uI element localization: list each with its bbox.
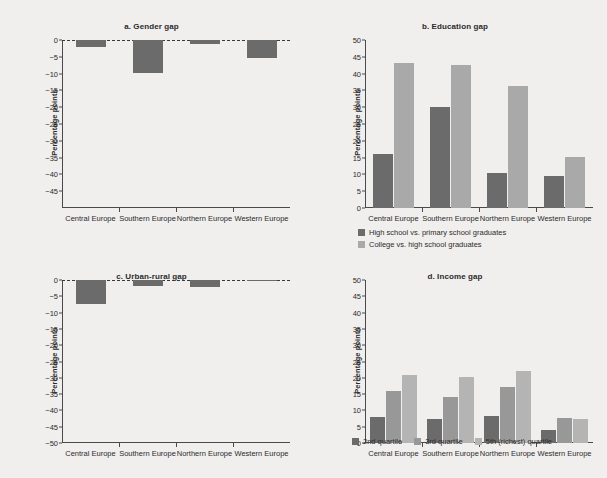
bar [500,387,515,443]
x-axis-tick-label: Central Europe [365,214,422,223]
legend-item: High school vs. primary school graduates [358,228,506,237]
figure-panel-grid: a. Gender gap Percentage points0−5−10−15… [0,0,607,478]
bar [508,86,528,208]
bar [402,375,417,443]
bar-container [365,40,593,208]
x-axis-tick-label: Northern Europe [479,449,536,458]
legend-item: College vs. high school graduates [358,240,482,249]
bar [373,154,393,208]
bar-group [536,280,593,443]
bar [516,371,531,443]
x-axis-tick-label: Western Europe [233,449,290,458]
x-axis-tick-label: Central Europe [62,214,119,223]
bar-group [536,40,593,208]
panel-c-urban-rural-gap: c. Urban-rural gap Percentage points0−5−… [0,250,303,478]
x-axis-tick-mark [119,208,120,212]
x-axis-tick-mark [176,208,177,212]
x-axis-tick-label: Western Europe [536,214,593,223]
bar-group [233,40,290,208]
bar-group [233,280,290,443]
legend: 2nd quartile3rd quartile5th (richest) qu… [313,437,591,446]
bar-group [62,280,119,443]
legend-label: 5th (richest) quartile [486,437,552,446]
bar [247,280,277,281]
legend: High school vs. primary school graduates… [358,228,506,249]
bar [190,40,220,44]
panel-a-gender-gap: a. Gender gap Percentage points0−5−10−15… [0,0,303,250]
x-axis-labels: Central EuropeSouthern EuropeNorthern Eu… [365,214,593,223]
legend-label: College vs. high school graduates [369,240,482,249]
x-axis-tick-label: Northern Europe [176,449,233,458]
x-axis-tick-mark [422,208,423,212]
plot-area: 50454035302520151050 [365,280,593,443]
legend-label: High school vs. primary school graduates [369,228,506,237]
x-axis-tick-label: Western Europe [233,214,290,223]
x-axis-tick-mark [233,208,234,212]
legend-item: 2nd quartile [352,437,402,446]
bar [451,65,471,208]
bar [133,280,163,286]
bar-group [119,40,176,208]
x-axis-labels: Central EuropeSouthern EuropeNorthern Eu… [365,449,593,458]
bar-container [365,280,593,443]
x-axis-labels: Central EuropeSouthern EuropeNorthern Eu… [62,214,290,223]
bar-group [176,40,233,208]
bar-group [62,40,119,208]
x-axis-tick-mark [176,443,177,447]
x-axis-tick-label: Central Europe [62,449,119,458]
bar [247,40,277,58]
bar [386,391,401,443]
bar [76,280,106,304]
x-axis-tick-mark [233,443,234,447]
bar-group [365,40,422,208]
legend-swatch-icon [414,438,421,445]
legend-item: 3rd quartile [414,437,463,446]
legend-label: 3rd quartile [425,437,463,446]
legend-label: 2nd quartile [363,437,402,446]
x-axis-tick-label: Southern Europe [422,214,479,223]
bar [394,63,414,208]
bar-group [176,280,233,443]
bar [459,377,474,443]
bar-group [422,280,479,443]
legend-swatch-icon [352,438,359,445]
bar [76,40,106,47]
panel-b-education-gap: b. Education gap Percentage points504540… [303,0,607,250]
x-axis-tick-label: Northern Europe [176,214,233,223]
bar-group [119,280,176,443]
x-axis-tick-label: Western Europe [536,449,593,458]
legend-swatch-icon [358,241,365,248]
x-axis-tick-mark [479,208,480,212]
x-axis-tick-label: Southern Europe [119,449,176,458]
bar [487,173,507,208]
x-axis-tick-label: Central Europe [365,449,422,458]
bar [133,40,163,73]
legend-swatch-icon [358,229,365,236]
bar-group [365,280,422,443]
panel-d-income-gap: d. Income gap Percentage points504540353… [303,250,607,478]
plot-area: 0−5−10−15−20−25−30−35−40−45 [62,40,290,208]
bar [190,280,220,287]
x-axis-labels: Central EuropeSouthern EuropeNorthern Eu… [62,449,290,458]
bar-group [479,280,536,443]
x-axis-tick-mark [119,443,120,447]
bar-group [479,40,536,208]
panel-a-title: a. Gender gap [0,22,303,31]
x-axis-tick-label: Southern Europe [422,449,479,458]
legend-swatch-icon [475,438,482,445]
x-axis-tick-mark [536,208,537,212]
bar [565,157,585,208]
x-axis-tick-label: Northern Europe [479,214,536,223]
plot-area: 0−5−10−15−20−25−30−35−40−45−50 [62,280,290,443]
bar-group [422,40,479,208]
bar-container [62,280,290,443]
bar [544,176,564,208]
plot-area: 50454035302520151050 [365,40,593,208]
bar-container [62,40,290,208]
panel-b-title: b. Education gap [303,22,607,31]
bar [430,107,450,208]
x-axis-tick-label: Southern Europe [119,214,176,223]
legend-item: 5th (richest) quartile [475,437,552,446]
